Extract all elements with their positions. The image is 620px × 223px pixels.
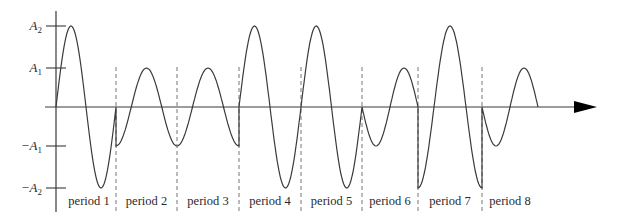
- y-tick-label: −A2: [21, 180, 42, 197]
- axes: A2A1−A1−A2: [21, 11, 597, 212]
- period-labels: period 1period 2period 3period 4period 5…: [68, 194, 530, 208]
- period-label: period 3: [187, 194, 228, 208]
- period-label: period 6: [369, 194, 410, 208]
- period-label: period 8: [489, 194, 530, 208]
- period-label: period 2: [126, 194, 167, 208]
- y-tick-label: −A1: [21, 138, 42, 155]
- period-label: period 1: [68, 194, 109, 208]
- x-axis-arrow-icon: [574, 101, 597, 113]
- y-tick-label: A2: [29, 18, 42, 35]
- period-label: period 7: [429, 194, 470, 208]
- modulation-waveform-diagram: A2A1−A1−A2 period 1period 2period 3perio…: [0, 0, 620, 223]
- y-tick-label: A1: [29, 60, 42, 77]
- period-label: period 4: [249, 194, 291, 208]
- period-label: period 5: [311, 194, 352, 208]
